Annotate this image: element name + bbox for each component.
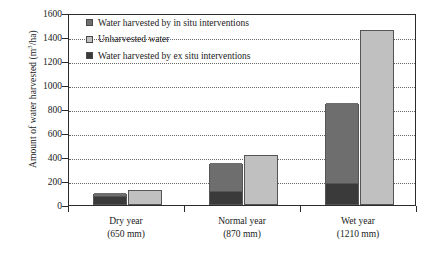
bar-harvested-1 [209,164,243,205]
category-name-1: Normal year [182,215,302,228]
y-axis-title-exponent: 3 [26,45,33,48]
legend-label-2: Water harvested by ex situ interventions [98,51,251,61]
category-rainfall-1: (870 mm) [182,228,302,241]
bar-segment-harvested-0-2 [326,184,358,204]
legend-item-0: Water harvested by in situ interventions [86,16,251,29]
bar-segment-harvested-1-2 [326,103,358,184]
chart-legend: Water harvested by in situ interventions… [86,16,251,66]
category-rainfall-0: (650 mm) [66,228,186,241]
bar-harvested-2 [325,104,359,205]
y-tick-label-0: 0 [22,201,62,211]
x-tick-mark-1 [184,206,185,212]
bar-segment-harvested-0-1 [210,192,242,204]
bar-segment-harvested-0-0 [94,197,126,204]
category-rainfall-2: (1210 mm) [298,228,418,241]
legend-label-1: Unharvested water [98,34,169,44]
bar-segment-harvested-1-0 [94,193,126,197]
legend-swatch-1 [86,36,93,43]
bar-harvested-0 [93,194,127,205]
bar-unharvested-0 [128,190,162,205]
legend-item-1: Unharvested water [86,33,251,46]
category-name-2: Wet year [298,215,418,228]
bar-unharvested-1 [244,155,278,205]
legend-swatch-0 [86,19,93,26]
legend-label-0: Water harvested by in situ interventions [98,18,249,28]
category-label-2: Wet year(1210 mm) [298,215,418,240]
legend-item-2: Water harvested by ex situ interventions [86,49,251,62]
x-tick-mark-2 [300,206,301,212]
category-label-0: Dry year(650 mm) [66,215,186,240]
y-tick-label-1000: 1000 [22,81,62,91]
chart-figure: Amount of water harvested (m3/ha) 020040… [0,0,434,260]
y-tick-label-400: 400 [22,153,62,163]
y-tick-label-800: 800 [22,105,62,115]
x-tick-mark-0 [68,206,69,212]
y-tick-label-1400: 1400 [22,33,62,43]
bar-segment-harvested-1-1 [210,163,242,192]
category-label-1: Normal year(870 mm) [182,215,302,240]
y-tick-label-200: 200 [22,177,62,187]
y-tick-label-600: 600 [22,129,62,139]
bar-unharvested-2 [360,30,394,205]
x-tick-mark-3 [416,206,417,212]
y-tick-label-1200: 1200 [22,57,62,67]
category-name-0: Dry year [66,215,186,228]
y-tick-label-1600: 1600 [22,9,62,19]
legend-swatch-2 [86,52,93,59]
